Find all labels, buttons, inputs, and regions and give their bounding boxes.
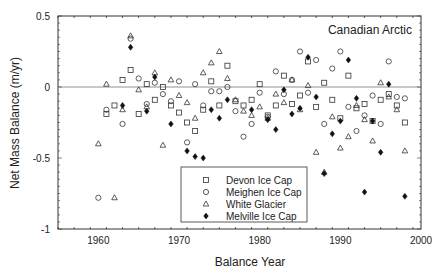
triangle-marker bbox=[136, 87, 142, 92]
triangle-marker bbox=[160, 142, 166, 147]
square-marker bbox=[193, 129, 198, 134]
legend-label: Meighen Ice Cap bbox=[226, 187, 302, 198]
circle-marker bbox=[394, 94, 399, 99]
square-marker bbox=[185, 120, 190, 125]
filled-diamond-marker bbox=[120, 102, 125, 108]
square-marker bbox=[346, 73, 351, 78]
square-marker bbox=[241, 103, 246, 108]
circle-marker bbox=[176, 79, 181, 84]
legend-label: Devon Ice Cap bbox=[226, 175, 293, 186]
square-marker bbox=[249, 97, 254, 102]
triangle-marker bbox=[168, 77, 174, 82]
triangle-marker bbox=[112, 195, 118, 200]
triangle-marker bbox=[329, 114, 335, 119]
x-tick-label: 2000 bbox=[410, 235, 433, 246]
filled-diamond-marker bbox=[249, 107, 254, 113]
circle-marker bbox=[152, 80, 157, 85]
filled-diamond-marker bbox=[217, 115, 222, 121]
circle-marker bbox=[193, 82, 198, 87]
triangle-marker bbox=[249, 112, 255, 117]
circle-marker bbox=[209, 89, 214, 94]
triangle-marker bbox=[96, 141, 102, 146]
circle-marker bbox=[184, 140, 189, 145]
filled-diamond-marker bbox=[185, 148, 190, 154]
triangle-marker bbox=[257, 104, 263, 109]
circle-marker bbox=[96, 195, 101, 200]
filled-diamond-marker bbox=[209, 107, 214, 113]
square-marker bbox=[314, 104, 319, 109]
triangle-marker bbox=[338, 145, 344, 150]
circle-marker bbox=[314, 57, 319, 62]
triangle-marker bbox=[208, 60, 214, 65]
square-marker bbox=[257, 82, 262, 87]
x-axis-label: Balance Year bbox=[215, 255, 286, 269]
filled-diamond-marker bbox=[362, 189, 367, 195]
square-marker bbox=[152, 97, 157, 102]
triangle-marker bbox=[394, 107, 400, 112]
square-marker bbox=[177, 110, 182, 115]
filled-diamond-marker bbox=[354, 95, 359, 101]
x-tick-label: 1960 bbox=[87, 235, 110, 246]
filled-diamond-marker bbox=[290, 111, 295, 117]
triangle-marker bbox=[176, 93, 182, 98]
filled-diamond-marker bbox=[225, 97, 230, 103]
circle-marker bbox=[378, 121, 383, 126]
circle-marker bbox=[241, 134, 246, 139]
triangle-marker bbox=[184, 100, 190, 105]
filled-diamond-marker bbox=[201, 155, 206, 161]
triangle-marker bbox=[200, 70, 206, 75]
x-tick-label: 1970 bbox=[168, 235, 191, 246]
circle-marker bbox=[136, 76, 141, 81]
y-tick-label: 0 bbox=[44, 82, 50, 93]
series-devon-ice-cap bbox=[104, 59, 407, 134]
square-marker bbox=[209, 79, 214, 84]
square-marker bbox=[273, 103, 278, 108]
circle-marker bbox=[233, 109, 238, 114]
triangle-marker bbox=[217, 49, 223, 54]
circle-marker bbox=[338, 49, 343, 54]
filled-diamond-marker bbox=[128, 44, 133, 50]
triangle-marker bbox=[354, 102, 360, 107]
filled-diamond-marker bbox=[386, 81, 391, 87]
square-marker bbox=[144, 82, 149, 87]
scatter-chart: 19601970198019902000 0.50-0.5-1 Canadian… bbox=[0, 0, 445, 278]
triangle-marker bbox=[128, 33, 134, 38]
triangle-marker bbox=[378, 80, 384, 85]
circle-marker bbox=[257, 90, 262, 95]
legend: Devon Ice CapMeighen Ice CapWhite Glacie… bbox=[181, 167, 307, 222]
filled-diamond-marker bbox=[403, 193, 408, 199]
circle-marker bbox=[305, 90, 310, 95]
triangle-marker bbox=[281, 100, 287, 105]
triangle-marker bbox=[192, 115, 198, 120]
filled-diamond-marker bbox=[370, 118, 375, 124]
chart-title: Canadian Arctic bbox=[328, 23, 412, 37]
circle-marker bbox=[330, 66, 335, 71]
circle-marker bbox=[346, 104, 351, 109]
filled-diamond-marker bbox=[378, 149, 383, 155]
y-tick-label: 0.5 bbox=[36, 11, 50, 22]
y-tick-label: -1 bbox=[41, 224, 50, 235]
square-marker bbox=[298, 93, 303, 98]
filled-diamond-marker bbox=[314, 94, 319, 100]
square-marker bbox=[289, 102, 294, 107]
square-marker bbox=[330, 97, 335, 102]
circle-marker bbox=[120, 121, 125, 126]
circle-marker bbox=[249, 121, 254, 126]
square-marker bbox=[225, 63, 230, 68]
filled-diamond-marker bbox=[338, 118, 343, 124]
circle-marker bbox=[402, 96, 407, 101]
circle-marker bbox=[297, 49, 302, 54]
y-tick-label: -0.5 bbox=[33, 153, 51, 164]
filled-diamond-marker bbox=[330, 131, 335, 137]
square-marker bbox=[322, 80, 327, 85]
x-tick-label: 1980 bbox=[249, 235, 272, 246]
square-marker bbox=[362, 102, 367, 107]
square-marker bbox=[354, 106, 359, 111]
circle-marker bbox=[354, 128, 359, 133]
triangle-marker bbox=[346, 134, 352, 139]
circle-marker bbox=[217, 89, 222, 94]
triangle-marker bbox=[370, 138, 376, 143]
square-marker bbox=[378, 97, 383, 102]
square-marker bbox=[120, 77, 125, 82]
circle-marker bbox=[370, 93, 375, 98]
